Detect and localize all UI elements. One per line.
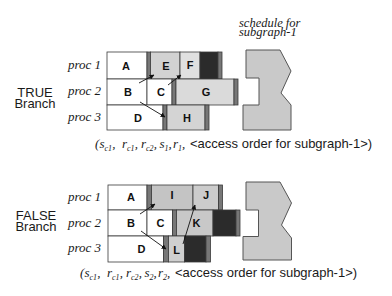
caption-separator: ,: [182, 136, 185, 151]
task-label-a: A: [122, 60, 130, 72]
schedule-diagram: schedule for subgraph-1 TRUE Branch proc…: [0, 0, 392, 296]
comm-bar: [163, 105, 167, 130]
branch-label-line2: Branch: [14, 96, 55, 111]
caption-separator: ,: [167, 265, 170, 280]
proc-label-2: proc 2: [67, 83, 102, 98]
caption-term-sub: c1: [105, 144, 113, 153]
comm-bar: [206, 236, 211, 262]
caption-separator: ,: [97, 265, 104, 280]
comm-bar: [234, 79, 238, 105]
comm-bar: [173, 210, 177, 236]
task-label-k: K: [193, 217, 201, 229]
task-label-d: D: [134, 112, 142, 124]
task-label-d: D: [138, 243, 146, 255]
caption-term-sub: c1: [127, 144, 135, 153]
task-label-a: A: [127, 191, 135, 203]
comm-bar: [218, 52, 222, 79]
caption-term-sub: c2: [131, 273, 139, 282]
comm-bar: [236, 210, 240, 236]
proc-label-3: proc 3: [67, 240, 102, 255]
task-label-c: C: [157, 86, 165, 98]
comm-bar: [172, 79, 176, 105]
proc-label-1: proc 1: [67, 57, 101, 72]
comm-bar: [219, 185, 223, 210]
task-label-l: L: [173, 244, 180, 256]
caption-separator: ,: [112, 136, 119, 151]
proc-label-1: proc 1: [67, 189, 101, 204]
comm-bar: [147, 52, 151, 79]
task-label-i: I: [170, 189, 173, 201]
task-label-e: E: [162, 60, 169, 72]
comm-bar: [205, 105, 209, 130]
busy-block: [213, 210, 236, 236]
schedule-label: schedule for subgraph-1: [239, 16, 301, 40]
task-block-d: [108, 236, 164, 262]
busy-block: [185, 236, 207, 262]
task-label-j: J: [203, 189, 209, 201]
proc-label-2: proc 2: [67, 215, 102, 230]
task-label-b: B: [127, 217, 135, 229]
branch-label-line2: Branch: [15, 219, 56, 234]
schedule-label-line2: subgraph-1: [239, 25, 297, 39]
task-label-c: C: [157, 217, 165, 229]
task-label-g: G: [202, 86, 211, 98]
caption-tail: <access order for subgraph-1>): [190, 136, 372, 151]
caption-term-sub: c2: [146, 144, 154, 153]
caption-term-sub: c1: [90, 273, 98, 282]
task-label-h: H: [183, 112, 191, 124]
caption-term-sub: c1: [112, 273, 120, 282]
task-label-b: B: [124, 86, 132, 98]
caption-tail: <access order for subgraph-1>): [175, 265, 357, 280]
task-label-f: F: [187, 59, 194, 71]
proc-label-3: proc 3: [67, 109, 102, 124]
busy-block: [200, 52, 218, 79]
